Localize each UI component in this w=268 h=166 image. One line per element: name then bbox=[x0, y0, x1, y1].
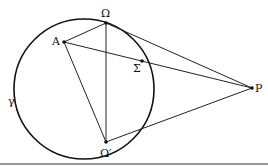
label-OmegaPrime: Ω′ bbox=[100, 147, 112, 160]
point-Omega bbox=[104, 21, 108, 25]
tangent-Omega-P bbox=[106, 23, 252, 88]
segment-A-OmegaPrime bbox=[64, 42, 106, 142]
segment-A-P bbox=[64, 42, 252, 88]
label-A: A bbox=[51, 35, 61, 48]
point-OmegaPrime bbox=[104, 140, 108, 144]
point-A bbox=[62, 40, 66, 44]
segment-A-Omega bbox=[64, 23, 106, 42]
label-gamma: γ bbox=[8, 95, 15, 108]
label-P: P bbox=[255, 82, 263, 95]
tangent-OmegaPrime-P bbox=[106, 88, 252, 142]
label-Omega: Ω bbox=[101, 7, 110, 20]
point-P bbox=[250, 86, 254, 90]
geometry-diagram: A Ω Σ Ω′ P γ bbox=[0, 0, 268, 166]
label-Sigma: Σ bbox=[133, 62, 141, 75]
